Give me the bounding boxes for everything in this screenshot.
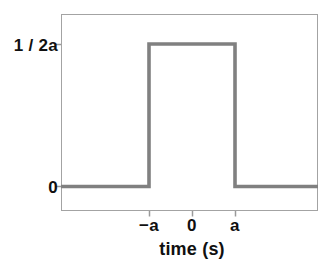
x-axis-tick-label-pos-a: a [230,217,240,234]
x-axis-title: time (s) [159,240,225,258]
y-axis-ticks [56,45,62,187]
x-axis-tick-label-neg-a: −a [139,217,159,234]
y-axis-tick-label-zero: 0 [48,179,58,196]
y-axis-tick-label-half-a: 1 / 2a [14,37,58,54]
rect-pulse-chart: 1 / 2a 0 −a 0 a time (s) [0,0,332,270]
signal-trace-rect-pulse [61,44,318,187]
x-axis-tick-label-zero: 0 [187,217,197,234]
